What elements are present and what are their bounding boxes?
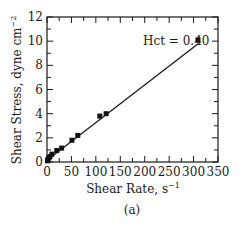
y-tick-label: 6 xyxy=(35,83,43,97)
y-axis-label-text: Shear Stress, dyne cm xyxy=(10,27,24,164)
x-tick-label: 250 xyxy=(158,165,181,179)
y-tick-label: 2 xyxy=(35,131,43,145)
x-tick-label: 200 xyxy=(133,165,156,179)
x-tick-label: 300 xyxy=(182,165,205,179)
y-tick-label: 10 xyxy=(28,34,43,48)
x-axis-label-text: Shear Rate, s xyxy=(86,182,168,196)
y-tick-label: 4 xyxy=(35,107,43,121)
data-point-square xyxy=(104,111,109,116)
y-tick-label: 0 xyxy=(35,155,43,169)
y-tick-label: 8 xyxy=(35,58,43,72)
shear-stress-chart: 050100150200250300350024681012 Hct = 0.4… xyxy=(0,0,240,226)
x-axis-label-superscript: −1 xyxy=(168,181,180,190)
figure-caption: (a) xyxy=(124,203,141,217)
x-tick-label: 50 xyxy=(64,165,79,179)
y-axis-label-superscript: −2 xyxy=(9,16,18,28)
data-point-square xyxy=(97,114,102,119)
x-tick-label: 150 xyxy=(109,165,132,179)
data-point-square xyxy=(54,148,59,153)
hct-annotation: Hct = 0.40 xyxy=(143,34,209,48)
data-point-square xyxy=(75,133,80,138)
x-axis-label: Shear Rate, s−1 xyxy=(86,181,180,196)
x-tick-label: 350 xyxy=(207,165,230,179)
x-tick-label: 0 xyxy=(43,165,51,179)
y-axis-label: Shear Stress, dyne cm−2 xyxy=(9,16,24,165)
data-point-square xyxy=(69,138,74,143)
data-point-square xyxy=(49,152,54,157)
y-tick-label: 12 xyxy=(28,10,43,24)
x-tick-label: 100 xyxy=(84,165,107,179)
data-point-square xyxy=(59,146,64,151)
